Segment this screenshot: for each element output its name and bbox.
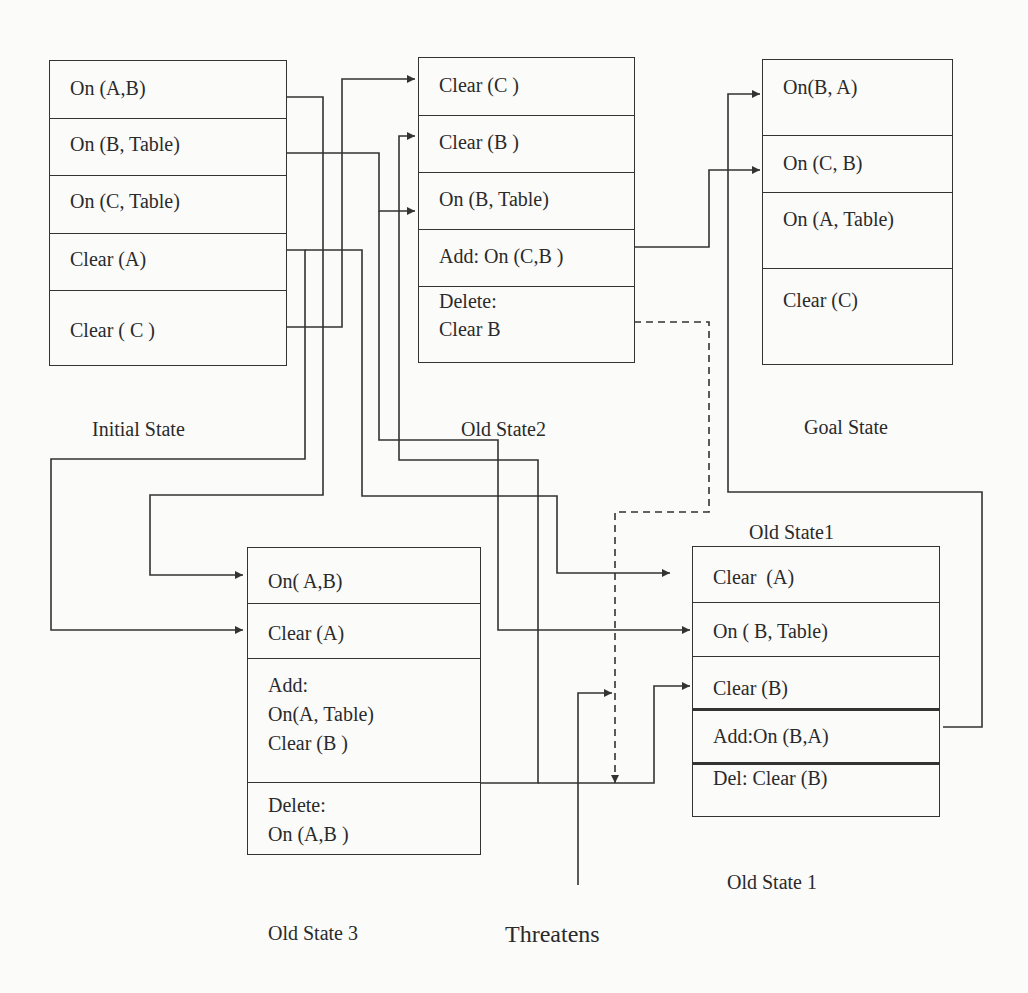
old-state2-row: Clear (C ) — [419, 58, 634, 115]
initial-row: Clear ( C ) — [50, 290, 286, 366]
old-state1-row: Add:On (B,A) — [693, 708, 939, 762]
threatens-label: Threatens — [505, 921, 600, 948]
link-onBT-to-os2 — [287, 153, 415, 211]
old-state1-row: Clear (B) — [693, 656, 939, 708]
threatens-pointer — [578, 693, 612, 885]
old-state1-row: Del: Clear (B) — [693, 762, 939, 817]
old-state1-row: Clear (A) — [693, 547, 939, 602]
old-state2-box: Clear (C ) Clear (B ) On (B, Table) Add:… — [418, 57, 635, 363]
initial-row: On (C, Table) — [50, 175, 286, 233]
old-state2-row: Clear (B ) — [419, 115, 634, 172]
old-state1-row: On ( B, Table) — [693, 602, 939, 656]
old-state3-row: Add: On(A, Table) Clear (B ) — [248, 658, 480, 782]
old-state1-top-caption: Old State1 — [749, 521, 834, 544]
old-state2-row: Delete: Clear B — [419, 286, 634, 363]
old-state1-caption: Old State 1 — [727, 871, 817, 894]
goal-row: Clear (C) — [763, 268, 952, 365]
old-state3-row: Clear (A) — [248, 603, 480, 658]
goal-row: On(B, A) — [763, 60, 952, 135]
link-os2-to-goal-onCB — [634, 170, 760, 247]
old-state3-row: Delete: On (A,B ) — [248, 782, 480, 855]
initial-row: On (B, Table) — [50, 118, 286, 175]
old-state2-caption: Old State2 — [461, 418, 546, 441]
initial-row: Clear (A) — [50, 233, 286, 290]
goal-row: On (C, B) — [763, 135, 952, 192]
initial-state-caption: Initial State — [92, 418, 185, 441]
old-state2-row: Add: On (C,B ) — [419, 229, 634, 286]
link-clearC-to-os2 — [287, 79, 415, 327]
goal-state-caption: Goal State — [804, 416, 888, 439]
old-state2-row: On (B, Table) — [419, 172, 634, 229]
old-state3-caption: Old State 3 — [268, 922, 358, 945]
initial-row: On (A,B) — [50, 61, 286, 118]
link-os3-to-os1-clearB — [538, 686, 690, 783]
goal-row: On (A, Table) — [763, 192, 952, 268]
old-state1-box: Clear (A) On ( B, Table) Clear (B) Add:O… — [692, 546, 940, 817]
initial-state-box: On (A,B) On (B, Table) On (C, Table) Cle… — [49, 60, 287, 366]
old-state3-row: On( A,B) — [248, 548, 480, 603]
goal-state-box: On(B, A) On (C, B) On (A, Table) Clear (… — [762, 59, 953, 365]
old-state3-box: On( A,B) Clear (A) Add: On(A, Table) Cle… — [247, 547, 481, 855]
